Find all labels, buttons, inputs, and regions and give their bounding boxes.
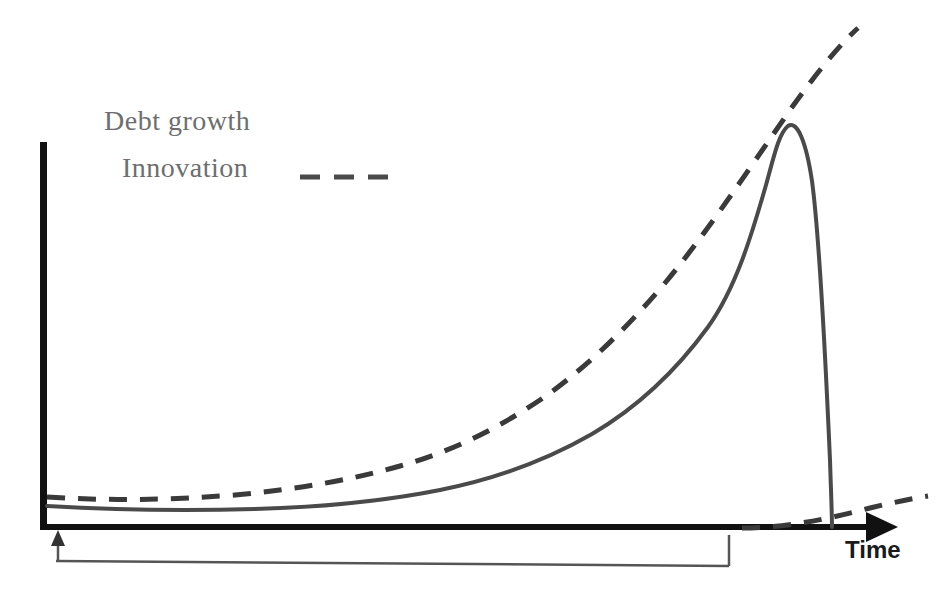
bracket-up-arrowhead — [51, 530, 65, 546]
x-axis-title: Time — [845, 536, 901, 564]
legend-item-innovation: Innovation — [122, 152, 248, 184]
bracket-span — [56, 561, 729, 566]
legend-item-debt-growth: Debt growth — [104, 105, 250, 137]
y-axis-line — [40, 142, 47, 530]
series-line-innovation — [47, 28, 858, 499]
series-line-debt-growth — [47, 125, 832, 527]
growth-phase-bracket — [51, 530, 729, 566]
chart-figure: Debt growth Innovation Time — [0, 0, 952, 598]
series-line-innovation-tail — [742, 496, 928, 528]
chart-canvas — [0, 0, 952, 598]
